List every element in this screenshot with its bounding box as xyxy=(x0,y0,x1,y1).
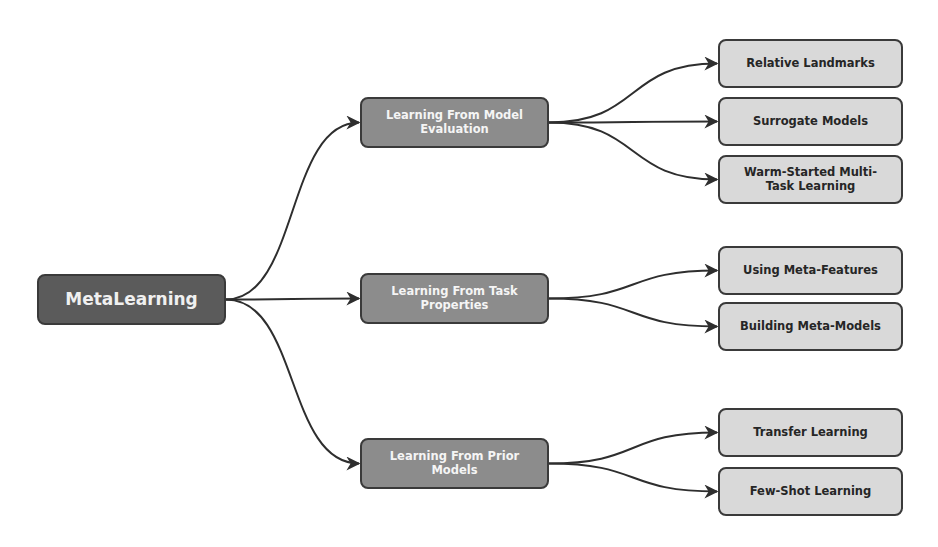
node-label: Warm-Started Multi-Task Learning xyxy=(741,166,881,194)
edge-root-to-model-evaluation xyxy=(226,123,359,300)
node-label: Using Meta-Features xyxy=(743,264,878,278)
leaf-node-few-shot-learning[interactable]: Few-Shot Learning xyxy=(718,467,903,516)
node-label: Learning From Task Properties xyxy=(385,285,525,313)
edge-task-properties-to-meta-models xyxy=(549,299,717,327)
node-label: Learning From Model Evaluation xyxy=(380,109,530,137)
node-label: Learning From Prior Models xyxy=(385,450,525,478)
edge-model-evaluation-to-warm-started xyxy=(549,123,717,180)
leaf-node-building-meta-models[interactable]: Building Meta-Models xyxy=(718,302,903,351)
branch-node-model-evaluation[interactable]: Learning From Model Evaluation xyxy=(360,97,549,148)
leaf-node-warm-started-multi-task-learning[interactable]: Warm-Started Multi-Task Learning xyxy=(718,155,903,204)
leaf-node-relative-landmarks[interactable]: Relative Landmarks xyxy=(718,39,903,88)
branch-node-task-properties[interactable]: Learning From Task Properties xyxy=(360,273,549,324)
leaf-node-transfer-learning[interactable]: Transfer Learning xyxy=(718,408,903,457)
branch-node-prior-models[interactable]: Learning From Prior Models xyxy=(360,438,549,489)
edge-task-properties-to-meta-features xyxy=(549,271,717,299)
edge-model-evaluation-to-relative-landmarks xyxy=(549,64,717,123)
node-label: Building Meta-Models xyxy=(740,320,881,334)
edge-model-evaluation-to-surrogate-models xyxy=(549,122,717,123)
edge-root-to-task-properties xyxy=(226,299,359,300)
mind-map: MetaLearning Learning From Model Evaluat… xyxy=(0,0,938,547)
node-label: Transfer Learning xyxy=(753,426,868,440)
edge-prior-models-to-few-shot-learning xyxy=(549,464,717,492)
root-node-metalearning[interactable]: MetaLearning xyxy=(37,274,226,325)
edge-prior-models-to-transfer-learning xyxy=(549,433,717,464)
node-label: Relative Landmarks xyxy=(746,57,875,71)
edge-root-to-prior-models xyxy=(226,300,359,464)
node-label: Few-Shot Learning xyxy=(750,485,872,499)
node-label: MetaLearning xyxy=(65,289,197,309)
leaf-node-using-meta-features[interactable]: Using Meta-Features xyxy=(718,246,903,295)
leaf-node-surrogate-models[interactable]: Surrogate Models xyxy=(718,97,903,146)
node-label: Surrogate Models xyxy=(753,115,868,129)
